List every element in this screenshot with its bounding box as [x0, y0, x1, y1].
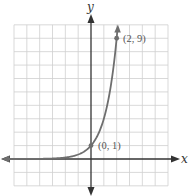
y-axis-up-arrow-icon: [88, 14, 95, 23]
x-axis-label: x: [181, 152, 188, 166]
y-axis-label: y: [86, 0, 94, 14]
exponential-graph: x y (0, 1) (2, 9): [0, 0, 189, 196]
x-axis-right-arrow-icon: [171, 156, 180, 163]
curve-left-arrow-icon: [2, 155, 10, 162]
point-label-2-9: (2, 9): [123, 33, 146, 45]
point-label-0-1: (0, 1): [98, 140, 121, 152]
data-point: [89, 143, 94, 148]
data-point: [114, 36, 119, 41]
curve-top-arrow-icon: [114, 24, 121, 32]
y-axis-down-arrow-icon: [88, 187, 95, 196]
